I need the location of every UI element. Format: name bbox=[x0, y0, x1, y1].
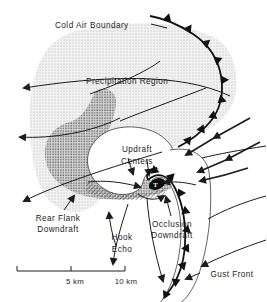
diagram-canvas: T Cold Air Boundary Precipitation Region… bbox=[0, 0, 267, 302]
cold-air-boundary-label: Cold Air Boundary bbox=[55, 21, 129, 30]
bold-inflow-2a bbox=[226, 142, 260, 160]
inflow-line-right-3 bbox=[202, 240, 266, 266]
supercell-schematic-figure: T Cold Air Boundary Precipitation Region… bbox=[0, 0, 267, 302]
scale-label-10km: 10 km bbox=[115, 277, 138, 286]
scale-bar: 5 km 10 km bbox=[17, 266, 137, 286]
hook-echo-label-line2: Echo bbox=[112, 245, 132, 254]
occlusion-pointer-arrow bbox=[166, 197, 171, 216]
precipitation-region-label: Precipitation Region bbox=[86, 77, 168, 86]
rear-flank-downdraft-label-line2: Downdraft bbox=[37, 225, 79, 234]
updraft-centers-label-line1: Updraft bbox=[122, 145, 152, 154]
scale-label-5km: 5 km bbox=[66, 277, 84, 286]
occlusion-downdraft-label-line1: Occlusion bbox=[152, 220, 192, 229]
rear-flank-downdraft-label-line1: Rear Flank bbox=[36, 214, 81, 223]
updraft-centers-label-line2: Centers bbox=[121, 157, 153, 166]
tornado-letter: T bbox=[153, 181, 158, 188]
hook-echo-label-line1: Hook bbox=[112, 233, 133, 242]
front-barb bbox=[163, 12, 174, 22]
gust-front-label: Gust Front bbox=[210, 270, 253, 279]
occlusion-downdraft-label-line2: Downdraft bbox=[151, 231, 193, 240]
inflow-line-right-2 bbox=[208, 196, 266, 219]
